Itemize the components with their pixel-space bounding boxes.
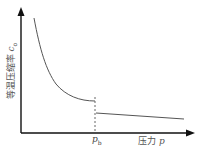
x-axis-arrow-icon [186,130,195,137]
y-axis-label-subscript: o [11,43,18,47]
x-tick-pb: pb [92,134,102,146]
y-axis-arrow-icon [18,7,25,16]
x-axis-label: 压力 p [138,134,165,147]
x-axis-label-symbol: p [159,136,165,146]
y-axis-label: 等温压缩率 co [4,43,18,100]
x-axis-label-text: 压力 [138,136,159,146]
y-axis-label-text: 等温压缩率 [6,51,16,99]
curve-below-pb [34,18,95,101]
line-above-pb [96,113,184,119]
chart-plot [0,0,199,152]
chart: 等温压缩率 co pb 压力 p [0,0,199,152]
x-tick-subscript: b [98,139,102,146]
y-axis-label-symbol: c [6,46,16,51]
